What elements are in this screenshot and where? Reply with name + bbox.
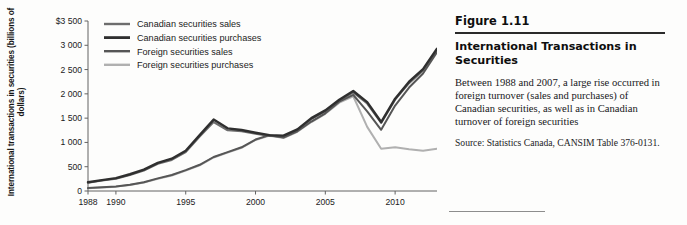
line-chart: 05001 0001 5002 0002 5003 000$3 50019881… bbox=[0, 0, 437, 225]
x-tick-label: 1995 bbox=[176, 197, 195, 207]
y-tick-label: 2 000 bbox=[60, 89, 82, 99]
y-tick-label: 1 500 bbox=[60, 113, 82, 123]
figure-divider bbox=[455, 32, 665, 34]
series-line-3 bbox=[88, 96, 437, 188]
figure-number: Figure 1.11 bbox=[455, 14, 675, 28]
x-tick-label: 1988 bbox=[78, 197, 97, 207]
bottom-divider bbox=[449, 211, 545, 212]
figure-container: International transactions in securities… bbox=[0, 0, 687, 225]
x-tick-label: 1990 bbox=[106, 197, 125, 207]
figure-description: Between 1988 and 2007, a large rise occu… bbox=[455, 76, 669, 129]
y-tick-label: 500 bbox=[68, 162, 83, 172]
x-tick-label: 2010 bbox=[386, 197, 405, 207]
series-line-2 bbox=[88, 52, 437, 188]
chart-panel: International transactions in securities… bbox=[0, 0, 437, 225]
legend-label-2: Foreign securities sales bbox=[137, 47, 233, 57]
legend-label-3: Foreign securities purchases bbox=[137, 60, 254, 70]
y-tick-label: 2 500 bbox=[60, 65, 82, 75]
y-tick-label: 1 000 bbox=[60, 137, 82, 147]
y-tick-label: 0 bbox=[77, 186, 82, 196]
legend-label-1: Canadian securities purchases bbox=[137, 33, 262, 43]
x-tick-label: 2005 bbox=[316, 197, 335, 207]
caption-panel: Figure 1.11 International Transactions i… bbox=[449, 0, 687, 225]
y-tick-label: 3 000 bbox=[60, 40, 82, 50]
figure-source: Source: Statistics Canada, CANSIM Table … bbox=[455, 137, 665, 149]
y-tick-label: $3 500 bbox=[56, 16, 83, 26]
x-tick-label: 2000 bbox=[246, 197, 265, 207]
figure-title: International Transactions in Securities bbox=[455, 40, 655, 69]
legend-label-0: Canadian securities sales bbox=[137, 19, 241, 29]
